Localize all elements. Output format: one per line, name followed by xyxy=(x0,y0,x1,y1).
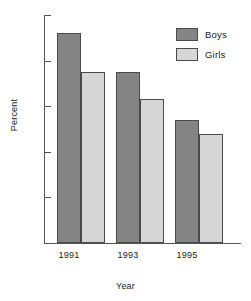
x-axis-title: Year xyxy=(0,281,251,291)
bar-boys-1991 xyxy=(57,33,81,243)
light-gray-swatch-icon xyxy=(176,48,198,61)
legend-item-boys: Boys xyxy=(176,26,227,43)
y-axis-line xyxy=(44,15,45,244)
legend-item-girls: Girls xyxy=(176,46,227,63)
bar-boys-1995 xyxy=(175,120,199,243)
x-tick-label-1993: 1993 xyxy=(98,250,158,260)
y-tick-10 xyxy=(45,197,51,198)
dark-gray-swatch-icon xyxy=(176,28,198,41)
y-tick-40 xyxy=(45,61,51,62)
bar-girls-1993 xyxy=(140,99,164,243)
legend-label-boys: Boys xyxy=(205,29,227,40)
y-axis-title: Percent xyxy=(9,85,19,145)
legend: Boys Girls xyxy=(176,26,227,66)
x-axis-line xyxy=(44,243,241,244)
bar-girls-1991 xyxy=(81,72,105,243)
legend-label-girls: Girls xyxy=(205,49,226,60)
x-tick-label-1995: 1995 xyxy=(157,250,217,260)
bar-girls-1995 xyxy=(199,134,223,243)
y-tick-50 xyxy=(45,15,51,16)
y-tick-20 xyxy=(45,152,51,153)
y-tick-30 xyxy=(45,106,51,107)
y-tick-0 xyxy=(45,243,51,244)
x-tick-label-1991: 1991 xyxy=(39,250,99,260)
bar-boys-1993 xyxy=(116,72,140,243)
bar-chart: Percent 50 40 30 20 10 0 1991 1993 1995 … xyxy=(0,0,251,301)
